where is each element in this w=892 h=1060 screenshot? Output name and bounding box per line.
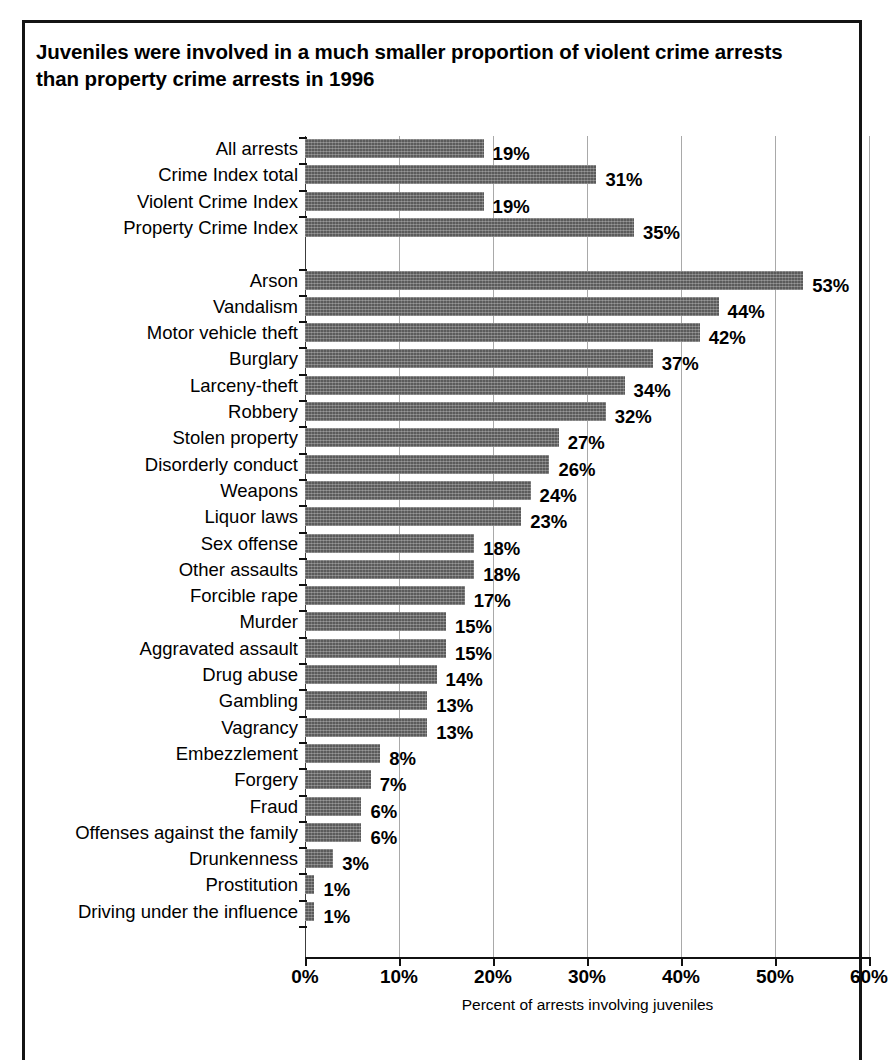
category-label: Crime Index total [158,164,298,186]
chart-row: Aggravated assault15% [0,636,884,662]
category-label: Stolen property [173,427,298,449]
chart-row: Stolen property27% [0,425,884,451]
bar [305,770,371,789]
category-label: Offenses against the family [75,822,298,844]
chart-row: Disorderly conduct26% [0,452,884,478]
category-label: Larceny-theft [190,375,298,397]
bar [305,691,427,710]
bar [305,586,465,605]
x-tick-label-60pct: 60% [834,966,892,988]
category-label: All arrests [216,138,298,160]
category-label: Disorderly conduct [145,454,298,476]
bar [305,744,380,763]
x-tick-label-10pct: 10% [364,966,434,988]
category-label: Fraud [250,796,298,818]
category-label: Burglary [229,348,298,370]
bar [305,402,606,421]
category-label: Property Crime Index [123,217,298,239]
chart-row: Murder15% [0,609,884,635]
bar [305,665,437,684]
bar [305,428,559,447]
x-tick-50pct [775,957,777,966]
x-tick-10pct [399,957,401,966]
chart-row: Fraud6% [0,794,884,820]
bar [305,718,427,737]
chart-row: Liquor laws23% [0,504,884,530]
category-label: Weapons [220,480,298,502]
category-label: Motor vehicle theft [147,322,298,344]
category-label: Gambling [219,690,298,712]
bar [305,349,653,368]
chart-row: Vandalism44% [0,294,884,320]
bar [305,323,700,342]
chart-row: Drug abuse14% [0,662,884,688]
bar [305,612,446,631]
bar [305,376,625,395]
bar [305,797,361,816]
chart-row: Embezzlement8% [0,741,884,767]
bar [305,455,549,474]
category-label: Forcible rape [190,585,298,607]
chart-row: Violent Crime Index19% [0,189,884,215]
x-tick-label-0pct: 0% [270,966,340,988]
chart-row: All arrests19% [0,136,884,162]
chart-row: Other assaults18% [0,557,884,583]
bar [305,875,314,894]
category-label: Violent Crime Index [137,191,298,213]
bar [305,902,314,921]
category-label: Drunkenness [189,848,298,870]
chart-row: Vagrancy13% [0,715,884,741]
chart-row: Drunkenness3% [0,846,884,872]
category-label: Prostitution [205,874,298,896]
bar [305,507,521,526]
bar [305,639,446,658]
x-tick-20pct [493,957,495,966]
bar-value-label: 35% [643,222,680,244]
category-label: Aggravated assault [140,638,298,660]
category-label: Embezzlement [176,743,298,765]
category-label: Sex offense [201,533,298,555]
bar [305,560,474,579]
chart-row: Robbery32% [0,399,884,425]
chart-row: Forgery7% [0,767,884,793]
bar [305,218,634,237]
category-label: Liquor laws [204,506,298,528]
x-tick-40pct [681,957,683,966]
chart-row: Weapons24% [0,478,884,504]
bar [305,165,596,184]
bar [305,139,484,158]
chart-row: Arson53% [0,268,884,294]
bar [305,823,361,842]
chart-row: Property Crime Index35% [0,215,884,241]
category-label: Drug abuse [202,664,298,686]
x-tick-label-30pct: 30% [552,966,622,988]
x-tick-0pct [305,957,307,966]
x-tick-label-40pct: 40% [646,966,716,988]
bar [305,297,719,316]
x-tick-label-20pct: 20% [458,966,528,988]
x-tick-30pct [587,957,589,966]
category-label: Forgery [234,769,298,791]
chart-row: Crime Index total31% [0,162,884,188]
category-label: Driving under the influence [78,901,298,923]
chart-row: Driving under the influence1% [0,899,884,925]
chart-row: Motor vehicle theft42% [0,320,884,346]
chart-row: Burglary37% [0,346,884,372]
chart-row: Forcible rape17% [0,583,884,609]
x-tick-60pct [869,957,871,966]
chart-row: Prostitution1% [0,872,884,898]
chart-row: Gambling13% [0,688,884,714]
category-label: Vagrancy [221,717,298,739]
bar [305,534,474,553]
category-label: Robbery [228,401,298,423]
x-tick-label-50pct: 50% [740,966,810,988]
chart-row-end [0,925,884,951]
bar [305,271,803,290]
bar [305,481,531,500]
chart-row: Offenses against the family6% [0,820,884,846]
bar [305,192,484,211]
category-label: Vandalism [213,296,298,318]
category-label: Other assaults [179,559,298,581]
chart-row: Sex offense18% [0,531,884,557]
